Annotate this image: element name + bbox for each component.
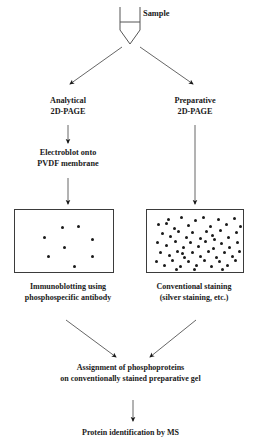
immunoblotting-line-2: phosphospecific antibody (2, 293, 134, 304)
protein-spot (165, 244, 168, 247)
immunoblotting-line-1: Immunoblotting using (2, 282, 134, 293)
protein-spot (91, 238, 94, 241)
protein-spot (203, 259, 206, 262)
ms-line-1: Protein identification by MS (2, 428, 259, 439)
flowchart-diagram: Sample Analytical 2D-PAGE Preparative 2D… (0, 0, 261, 447)
protein-spot (239, 225, 242, 228)
node-label-sample: Sample (143, 9, 170, 20)
protein-spot (155, 260, 158, 263)
sample-tube-icon (120, 7, 140, 44)
protein-spot (218, 260, 221, 263)
electroblot-line-2: PVDF membrane (10, 159, 126, 170)
protein-spot (238, 250, 241, 253)
protein-spot (205, 230, 208, 233)
node-label-ms: Protein identification by MS (2, 428, 259, 439)
protein-spot (228, 246, 231, 249)
protein-spot (215, 256, 218, 259)
node-label-analytical: Analytical 2D-PAGE (16, 96, 120, 117)
protein-spot (231, 255, 234, 258)
protein-spot (161, 232, 164, 235)
protein-spot (43, 236, 46, 239)
protein-spot (211, 234, 214, 237)
analytical-line-1: Analytical (16, 96, 120, 107)
gel-image-preparative (146, 209, 244, 273)
assignment-line-2: on conventionally stained preparative ge… (2, 374, 259, 385)
protein-spot (181, 252, 184, 255)
preparative-line-1: Preparative (143, 96, 247, 107)
protein-spot (175, 268, 178, 271)
node-label-conventional: Conventional staining (silver staining, … (129, 282, 259, 303)
protein-spot (217, 218, 220, 221)
protein-spot (157, 223, 160, 226)
conventional-line-2: (silver staining, etc.) (129, 293, 259, 304)
protein-spot (219, 229, 222, 232)
protein-spot (165, 222, 168, 225)
electroblot-line-1: Electroblot onto (10, 148, 126, 159)
assignment-line-1: Assignment of phosphoproteins (2, 363, 259, 374)
protein-spot (180, 216, 183, 219)
protein-spot (209, 225, 212, 228)
connector-sample-to-analytical (70, 47, 122, 84)
protein-spot (182, 246, 185, 249)
protein-spot (199, 255, 202, 258)
protein-spot (235, 231, 238, 234)
protein-spot (223, 251, 226, 254)
protein-spot (177, 230, 180, 233)
protein-spot (212, 247, 215, 250)
node-label-electroblot: Electroblot onto PVDF membrane (10, 148, 126, 169)
protein-spot (173, 227, 176, 230)
protein-spot (171, 259, 174, 262)
protein-spot (210, 265, 213, 268)
protein-spot (202, 216, 205, 219)
protein-spot (77, 225, 80, 228)
protein-spot (174, 240, 177, 243)
gel-image-analytical (14, 209, 114, 273)
analytical-line-2: 2D-PAGE (16, 107, 120, 118)
protein-spot (183, 256, 186, 259)
node-label-assignment: Assignment of phosphoproteins on convent… (2, 363, 259, 384)
protein-spot (167, 218, 170, 221)
protein-spot (220, 242, 223, 245)
protein-spot (234, 259, 237, 262)
protein-spot (195, 264, 198, 267)
protein-spot (156, 241, 159, 244)
protein-spot (191, 251, 194, 254)
protein-spot (236, 241, 239, 244)
connector-sample-to-preparative (140, 47, 193, 84)
sample-text: Sample (143, 9, 170, 20)
protein-spot (176, 250, 179, 253)
protein-spot (225, 223, 228, 226)
protein-spot (187, 260, 190, 263)
protein-spot (204, 240, 207, 243)
protein-spot (227, 236, 230, 239)
protein-spot (193, 268, 196, 271)
protein-spot (233, 217, 236, 220)
protein-spot (47, 255, 50, 258)
protein-spot (168, 254, 171, 257)
node-label-preparative: Preparative 2D-PAGE (143, 96, 247, 117)
protein-spot (185, 236, 188, 239)
connector-conventional-to-assignment (150, 320, 196, 357)
protein-spot (91, 255, 94, 258)
protein-spot (199, 237, 202, 240)
protein-spot (226, 264, 229, 267)
protein-spot (63, 246, 66, 249)
connector-immunoblotting-to-assignment (66, 320, 116, 357)
preparative-line-2: 2D-PAGE (143, 107, 247, 118)
protein-spot (159, 251, 162, 254)
protein-spot (179, 265, 182, 268)
protein-spot (61, 226, 64, 229)
protein-spot (194, 219, 197, 222)
protein-spot (197, 245, 200, 248)
protein-spot (207, 250, 210, 253)
protein-spot (213, 238, 216, 241)
protein-spot (189, 241, 192, 244)
protein-spot (73, 265, 76, 268)
conventional-line-1: Conventional staining (129, 282, 259, 293)
protein-spot (187, 224, 190, 227)
protein-spot (191, 231, 194, 234)
protein-spot (221, 268, 224, 271)
protein-spot (169, 235, 172, 238)
node-label-immunoblotting: Immunoblotting using phosphospecific ant… (2, 282, 134, 303)
protein-spot (163, 264, 166, 267)
